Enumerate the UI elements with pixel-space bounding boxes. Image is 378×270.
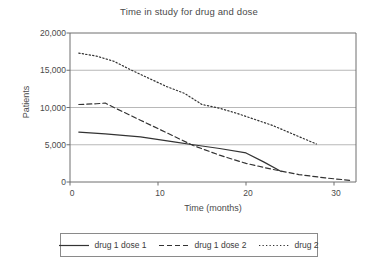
y-tick-label-10000: 10,000 bbox=[40, 103, 66, 113]
y-tick-label-20000: 20,000 bbox=[40, 28, 66, 38]
legend-swatch-solid-icon bbox=[59, 242, 89, 249]
x-axis-label: Time (months) bbox=[70, 203, 356, 213]
series-line-drug-2 bbox=[79, 53, 317, 144]
legend-item-drug-2[interactable]: drug 2 bbox=[259, 240, 318, 250]
x-tick-label-10: 10 bbox=[155, 188, 164, 198]
x-tick-label-20: 20 bbox=[243, 188, 252, 198]
legend-label-drug-1-dose-1: drug 1 dose 1 bbox=[94, 240, 146, 250]
x-tick-label-30: 30 bbox=[331, 188, 340, 198]
legend-label-drug-1-dose-2: drug 1 dose 2 bbox=[194, 240, 246, 250]
chart-legend: drug 1 dose 1 drug 1 dose 2 drug 2 bbox=[60, 233, 318, 257]
legend-label-drug-2: drug 2 bbox=[294, 240, 318, 250]
legend-item-drug-1-dose-1[interactable]: drug 1 dose 1 bbox=[59, 240, 146, 250]
x-tick-label-0: 0 bbox=[70, 188, 75, 198]
y-axis-label: Patients bbox=[21, 62, 31, 142]
chart-title: Time in study for drug and dose bbox=[0, 6, 378, 17]
chart-figure: Time in study for drug and dose 0 5,000 … bbox=[0, 0, 378, 270]
legend-swatch-dashed-icon bbox=[159, 242, 189, 249]
legend-swatch-dotted-icon bbox=[259, 242, 289, 249]
y-tick-label-15000: 15,000 bbox=[40, 65, 66, 75]
y-tick-label-0: 0 bbox=[61, 177, 66, 187]
series-line-drug-1-dose-1 bbox=[79, 132, 281, 171]
tick-marks bbox=[67, 33, 335, 186]
data-series-layer bbox=[79, 53, 352, 180]
plot-area bbox=[70, 33, 356, 182]
y-tick-label-5000: 5,000 bbox=[45, 140, 66, 150]
chart-canvas bbox=[70, 33, 356, 182]
legend-item-drug-1-dose-2[interactable]: drug 1 dose 2 bbox=[159, 240, 246, 250]
